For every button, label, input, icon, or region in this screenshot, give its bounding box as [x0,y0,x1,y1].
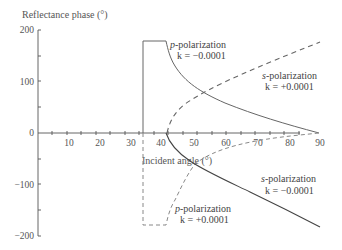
x-tick-40: 40 [156,138,166,148]
x-tick-30: 30 [126,138,136,148]
annotation-s-pol-k-pos: s-polarization k = +0.0001 [262,70,317,92]
x-tick-10: 10 [64,138,74,148]
ann-k-value: k = −0.0001 [177,50,226,61]
ann-k-value: k = −0.0001 [265,185,314,196]
x-tick-80: 80 [285,138,295,148]
y-tick-neg200: −200 [14,231,34,241]
annotation-s-pol-k-neg: s-polarization k = −0.0001 [261,173,316,196]
y-tick-200: 200 [20,25,35,35]
ann-k-value: k = +0.0001 [180,214,229,225]
annotation-p-pol-k-neg: p-polarization k = −0.0001 [169,39,226,61]
y-tick-labels: 200 100 0 −100 −200 [14,25,34,241]
svg-text:p-polarization: p-polarization [174,203,231,214]
y-tick-100: 100 [20,77,35,87]
x-tick-50: 50 [189,138,199,148]
x-tick-20: 20 [95,138,105,148]
ann-pol: -polarization [180,203,231,214]
ann-pol: -polarization [266,70,317,81]
x-tick-60: 60 [221,138,231,148]
x-tick-labels: 10 20 30 40 50 60 70 80 90 [64,138,325,148]
svg-text:s-polarization: s-polarization [262,70,317,81]
annotation-p-pol-k-pos: p-polarization k = +0.0001 [174,203,231,225]
ann-k-value: k = +0.0001 [265,81,314,92]
y-tick-0: 0 [29,128,34,138]
phase-chart: Reflectance phase (°) 200 100 0 −100 −20… [0,0,342,250]
y-tick-neg100: −100 [14,180,34,190]
ann-pol: -polarization [265,173,316,184]
ann-pol: -polarization [175,39,226,50]
x-tick-90: 90 [315,138,325,148]
y-axis-title: Reflectance phase (°) [22,9,108,21]
svg-text:s-polarization: s-polarization [261,173,316,184]
svg-text:p-polarization: p-polarization [169,39,226,50]
x-axis-title: Incident angle (°) [142,155,212,167]
x-axis [38,131,300,135]
x-tick-70: 70 [253,138,263,148]
